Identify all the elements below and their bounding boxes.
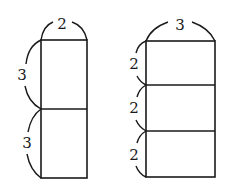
- left-top-brace-left: [41, 22, 53, 40]
- right-side-brace-2-top: [137, 85, 146, 97]
- right-side-brace-2-bottom: [136, 120, 146, 131]
- right-side-brace-1-bottom: [137, 76, 146, 85]
- diagram-canvas: 2 3 3 3 2 2 2: [0, 0, 230, 194]
- left-top-brace-right: [72, 22, 87, 40]
- right-side-brace-3-top: [137, 131, 146, 143]
- right-height-label-3: 2: [129, 146, 139, 164]
- right-height-label-2: 2: [129, 99, 139, 117]
- right-top-brace-right: [192, 22, 215, 41]
- left-figure: 2 3 3: [17, 15, 87, 178]
- right-height-label-1: 2: [129, 55, 139, 73]
- right-side-brace-3-bottom: [136, 166, 146, 177]
- right-figure: 3 2 2 2: [129, 16, 215, 177]
- left-side-brace-2-bottom: [27, 154, 41, 178]
- left-side-brace-2-top: [28, 109, 41, 132]
- right-top-brace-left: [146, 22, 168, 41]
- left-side-brace-1-top: [26, 40, 41, 64]
- right-width-label: 3: [175, 16, 185, 34]
- left-width-label: 2: [57, 15, 67, 33]
- left-height-label-2: 3: [22, 134, 32, 152]
- right-outer-rectangle: [146, 41, 215, 177]
- right-side-brace-1-top: [136, 41, 146, 53]
- left-side-brace-1-bottom: [25, 86, 41, 109]
- left-height-label-1: 3: [17, 66, 27, 84]
